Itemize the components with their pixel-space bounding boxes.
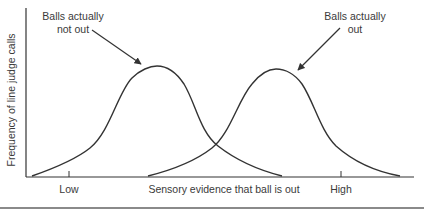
y-axis-label: Frequency of line judge calls bbox=[5, 33, 17, 166]
annotation-not-out-line1: Balls actually bbox=[42, 10, 104, 22]
annotation-not-out-line2: not out bbox=[57, 23, 89, 35]
tick-label-high: High bbox=[330, 183, 352, 195]
tick-label-low: Low bbox=[59, 183, 79, 195]
curve-out bbox=[148, 69, 400, 176]
signal-detection-diagram: Frequency of line judge calls Low Sensor… bbox=[0, 0, 424, 211]
annotation-out-line2: out bbox=[348, 23, 363, 35]
arrow-out-icon bbox=[298, 28, 340, 70]
arrow-not-out-icon bbox=[92, 30, 141, 64]
annotation-out-line1: Balls actually bbox=[324, 10, 386, 22]
curve-not-out bbox=[32, 66, 282, 176]
x-axis-label: Sensory evidence that ball is out bbox=[148, 183, 299, 195]
